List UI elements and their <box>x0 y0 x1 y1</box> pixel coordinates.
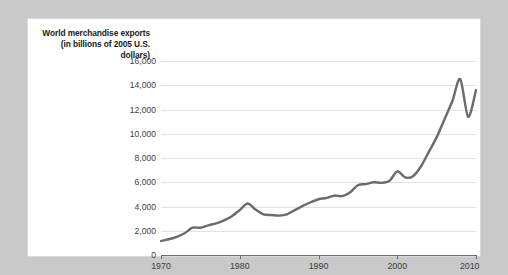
y-axis-tick-label: 12,000 <box>130 105 156 115</box>
x-axis-tick-label: 2010 <box>460 261 480 271</box>
x-axis-tick-mark <box>476 255 477 259</box>
y-axis-tick-label: 8,000 <box>134 153 156 163</box>
x-axis-tick-label: 1990 <box>309 261 329 271</box>
series-line-world-merchandise-exports <box>161 23 476 256</box>
y-axis-tick-label: 14,000 <box>130 80 156 90</box>
y-axis-tick-label: 2,000 <box>134 226 156 236</box>
x-axis-tick-label: 1980 <box>230 261 250 271</box>
y-axis-tick-label: 0 <box>151 250 156 260</box>
figure-panel: World merchandise exports (in billions o… <box>28 19 480 256</box>
y-axis-tick-label: 16,000 <box>130 56 156 66</box>
y-axis-tick-label: 4,000 <box>134 202 156 212</box>
data-line <box>161 79 476 241</box>
x-axis-tick-label: 1970 <box>151 261 171 271</box>
y-axis-tick-label: 10,000 <box>130 129 156 139</box>
plot-area: 02,0004,0006,0008,00010,00012,00014,0001… <box>161 23 476 256</box>
x-axis-tick-label: 2000 <box>387 261 407 271</box>
y-axis-tick-label: 6,000 <box>134 177 156 187</box>
